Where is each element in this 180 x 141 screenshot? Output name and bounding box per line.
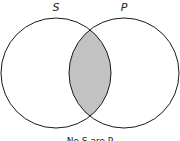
diagram-caption: No S are P: [67, 136, 114, 141]
set-p-label: P: [121, 1, 128, 14]
venn-diagram: S P No S are P: [0, 0, 180, 141]
set-s-label: S: [53, 1, 60, 14]
intersection-shaded-region: [69, 18, 179, 128]
